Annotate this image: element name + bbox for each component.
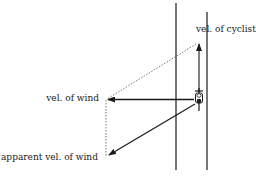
apparent-wind-velocity-label: apparent vel. of wind <box>1 153 98 162</box>
dotted-construction-line-diagonal <box>107 44 196 99</box>
apparent-wind-velocity-arrow <box>109 104 195 155</box>
wind-velocity-label: vel. of wind <box>46 94 99 103</box>
cyclist-icon <box>195 88 203 111</box>
cyclist-velocity-label: vel. of cyclist <box>196 25 256 34</box>
